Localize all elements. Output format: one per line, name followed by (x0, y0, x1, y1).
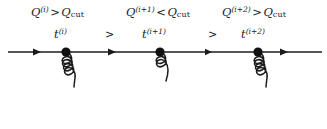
gluon-line-2 (156, 52, 168, 81)
parton-arrowhead-2 (108, 49, 116, 56)
emission-vertex-2 (155, 47, 164, 56)
emission-vertex-3 (253, 47, 262, 56)
feynman-diagram: Q(i)>Qcut Q(i+1)<Qcut Q(i+2)>Qcut t(i) t… (0, 0, 327, 129)
parton-arrowhead-3 (205, 49, 212, 55)
diagram-canvas (0, 0, 327, 129)
parton-arrowhead-1 (33, 49, 41, 56)
gluon-line-1 (62, 52, 75, 87)
parton-arrowhead-4 (280, 49, 288, 56)
emission-vertex-1 (61, 47, 70, 56)
gluon-line-3 (254, 52, 267, 87)
